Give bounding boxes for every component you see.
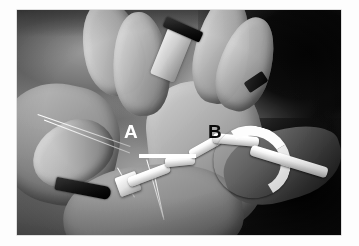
annotation-pointer-bar: [139, 154, 196, 158]
gloved-finger: [186, 10, 258, 108]
vignette-overlay: [17, 10, 341, 235]
cannula-hub: [114, 171, 142, 197]
suture-strand: [38, 114, 131, 147]
tissue-flap-bottom: [60, 159, 246, 235]
cannula-tube-tip: [249, 145, 329, 179]
tissue-flap-right: [216, 115, 341, 215]
gloved-finger: [109, 10, 172, 118]
gloved-finger: [207, 10, 285, 117]
surgical-photograph: A B: [17, 10, 341, 235]
cannula-tube-segment: [127, 162, 172, 187]
metal-instrument-blade: [162, 16, 203, 42]
retractor-instrument: [150, 23, 194, 83]
suture-strand: [117, 168, 135, 198]
annotation-label-a: A: [124, 122, 138, 141]
tissue-flap-left: [17, 73, 130, 215]
gloved-thumb: [22, 107, 125, 200]
gloved-finger: [72, 10, 153, 102]
metal-instrument-blade: [54, 177, 111, 200]
annotation-label-b: B: [208, 122, 222, 141]
film-grain-overlay: [17, 10, 341, 235]
suture-strand: [154, 173, 165, 220]
dark-cavity-upper-right: [198, 10, 341, 136]
tissue-field-background: [17, 10, 341, 235]
upper-shadow-band: [17, 10, 341, 37]
suture-strand: [44, 120, 130, 154]
suture-strand: [146, 160, 163, 218]
figure-canvas: A B: [0, 0, 359, 246]
surgical-clip: [244, 71, 269, 93]
